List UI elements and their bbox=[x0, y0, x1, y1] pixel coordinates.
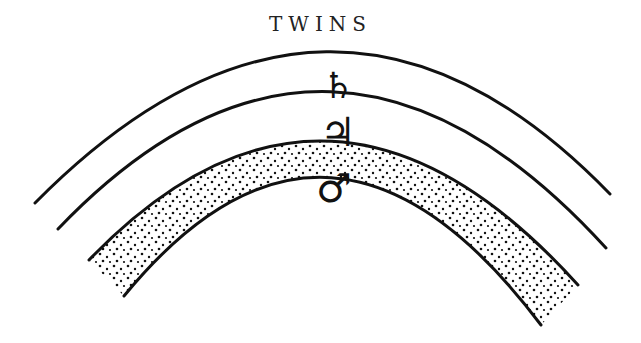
saturn-symbol-icon: ♄ bbox=[322, 68, 354, 104]
mars-symbol-icon: ♂ bbox=[316, 168, 352, 208]
jupiter-symbol-icon: ♃ bbox=[320, 112, 356, 152]
